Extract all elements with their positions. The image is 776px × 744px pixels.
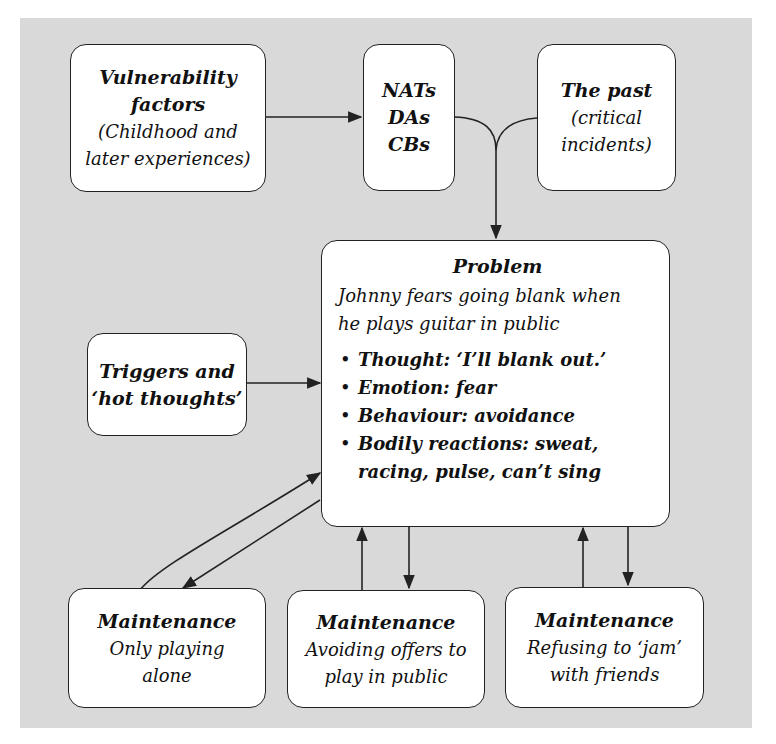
problem-bullets: Thought: ‘I’ll blank out.’ Emotion: fear… [338,346,657,486]
vulnerability-factors-box: Vulnerability factors (Childhood and lat… [70,44,266,192]
connector-past-merge [496,118,537,150]
cognitions-box: NATs DAs CBs [363,44,455,191]
the-past-box: The past (critical incidents) [537,44,676,191]
cognitions-das: DAs [388,104,430,131]
triggers-box: Triggers and ‘hot thoughts’ [87,333,247,436]
vulnerability-line-1: (Childhood and [98,118,238,145]
connector-cognitions-merge [454,117,496,150]
maintenance-3-line-2: with friends [550,661,660,688]
cognitions-nats: NATs [382,77,436,104]
bullet-key: Emotion: [358,377,450,398]
bullet-value: avoidance [468,405,575,426]
vulnerability-title-line-1: Vulnerability [99,64,237,91]
maintenance-3-line-1: Refusing to ‘jam’ [527,634,682,661]
problem-box: Problem Johnny fears going blank when he… [321,240,670,527]
bullet-value: ‘I’ll blank out.’ [450,349,606,370]
vulnerability-title-line-2: factors [131,91,205,118]
maintenance-3-title: Maintenance [535,607,674,634]
bullet-key: Behaviour: [358,405,468,426]
vulnerability-line-2: later experiences) [85,145,250,172]
problem-description-line-1: Johnny fears going blank when [338,282,657,310]
maintenance-1-title: Maintenance [98,608,237,635]
past-title: The past [561,77,653,104]
bullet-behaviour: Behaviour: avoidance [338,402,657,430]
bullet-key: Thought: [358,349,450,370]
triggers-line-1: Triggers and [99,358,234,385]
maintenance-2-line-2: play in public [324,663,447,690]
past-line-2: incidents) [561,131,651,158]
problem-description: Johnny fears going blank when he plays g… [338,282,657,338]
maintenance-2-line-1: Avoiding offers to [305,636,466,663]
bullet-emotion: Emotion: fear [338,374,657,402]
past-line-1: (critical [571,104,642,131]
maintenance-1-line-1: Only playing [109,635,224,662]
arrow-maintenance1-to-problem [140,473,320,590]
maintenance-1-line-2: alone [142,662,192,689]
bullet-bodily-reactions: Bodily reactions: sweat, racing, pulse, … [338,430,657,486]
maintenance-box-2: Maintenance Avoiding offers to play in p… [287,590,485,708]
triggers-line-2: ‘hot thoughts’ [92,385,243,412]
problem-description-line-2: he plays guitar in public [338,310,657,338]
maintenance-box-1: Maintenance Only playing alone [68,588,266,708]
bullet-key: Bodily reactions: [358,433,529,454]
cognitions-cbs: CBs [388,131,430,158]
bullet-value: fear [450,377,497,398]
maintenance-2-title: Maintenance [317,609,456,636]
bullet-thought: Thought: ‘I’ll blank out.’ [338,346,657,374]
problem-title: Problem [338,253,657,280]
maintenance-box-3: Maintenance Refusing to ‘jam’ with frien… [505,587,704,708]
